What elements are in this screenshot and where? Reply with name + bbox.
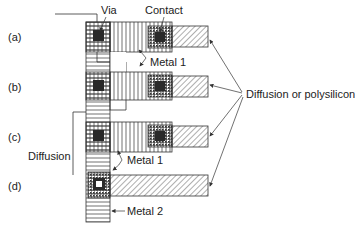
- row-label-c: (c): [8, 131, 21, 143]
- contact-a: [155, 32, 165, 42]
- via-label: Via: [101, 4, 117, 16]
- contact-label: Contact: [145, 4, 183, 16]
- row-a: [86, 17, 208, 52]
- diffusion-or-polysilicon-label: Diffusion or polysilicon: [246, 88, 355, 100]
- row-label-d: (d): [8, 180, 21, 192]
- metal1-label-bottom: Metal 1: [127, 154, 163, 166]
- row-c: [86, 122, 208, 152]
- metal1-label-top: Metal 1: [150, 56, 186, 68]
- via-c: [93, 130, 104, 141]
- via-a: [93, 30, 104, 41]
- row-label-a: (a): [8, 31, 21, 43]
- diffusion-label: Diffusion: [28, 150, 71, 162]
- row-label-b: (b): [8, 81, 21, 93]
- via-b: [93, 80, 104, 91]
- contact-c: [155, 131, 165, 141]
- contact-b: [155, 81, 165, 91]
- row-d: [88, 172, 208, 198]
- metal2-label: Metal 2: [127, 205, 163, 217]
